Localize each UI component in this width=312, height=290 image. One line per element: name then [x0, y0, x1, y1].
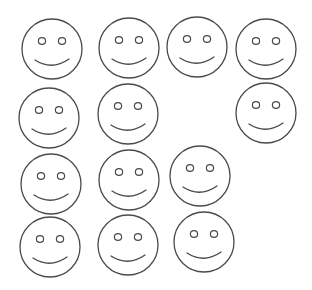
face-outline — [236, 83, 296, 143]
smiley-face-icon — [170, 146, 230, 206]
smile-mouth — [249, 123, 283, 129]
right-eye — [272, 38, 279, 45]
smiley-face-icon — [19, 88, 79, 148]
right-eye — [134, 234, 141, 241]
face-outline — [98, 215, 158, 275]
left-eye — [115, 37, 122, 44]
smile-mouth — [32, 128, 66, 134]
smiley-face-icon — [21, 154, 81, 214]
left-eye — [252, 38, 259, 45]
left-eye — [183, 36, 190, 43]
right-eye — [135, 37, 142, 44]
right-eye — [135, 169, 142, 176]
smile-mouth — [111, 124, 145, 130]
right-eye — [203, 36, 210, 43]
left-eye — [36, 236, 43, 243]
right-eye — [272, 102, 279, 109]
smiley-face-grid — [0, 0, 312, 290]
face-outline — [99, 18, 159, 78]
smiley-face-icon — [20, 217, 80, 277]
face-outline — [19, 88, 79, 148]
smile-mouth — [33, 257, 67, 263]
smiley-face-icon — [22, 19, 82, 79]
smiley-face-icon — [98, 84, 158, 144]
face-outline — [174, 212, 234, 272]
face-outline — [170, 146, 230, 206]
face-outline — [236, 19, 296, 79]
smiley-face-icon — [174, 212, 234, 272]
smile-mouth — [249, 59, 283, 65]
right-eye — [210, 231, 217, 238]
left-eye — [114, 103, 121, 110]
right-eye — [206, 165, 213, 172]
face-outline — [21, 154, 81, 214]
right-eye — [55, 107, 62, 114]
smile-mouth — [180, 57, 214, 63]
face-outline — [22, 19, 82, 79]
right-eye — [134, 103, 141, 110]
left-eye — [38, 38, 45, 45]
left-eye — [35, 107, 42, 114]
face-outline — [98, 84, 158, 144]
smiley-face-icon — [167, 17, 227, 77]
face-outline — [20, 217, 80, 277]
smiley-face-icon — [99, 150, 159, 210]
left-eye — [115, 169, 122, 176]
smile-mouth — [111, 255, 145, 261]
smile-mouth — [187, 252, 221, 258]
left-eye — [190, 231, 197, 238]
smile-mouth — [112, 58, 146, 64]
smile-mouth — [34, 194, 68, 200]
right-eye — [58, 38, 65, 45]
face-outline — [99, 150, 159, 210]
smile-mouth — [35, 59, 69, 65]
smiley-face-icon — [236, 83, 296, 143]
smiley-face-icon — [98, 215, 158, 275]
right-eye — [56, 236, 63, 243]
face-outline — [167, 17, 227, 77]
left-eye — [186, 165, 193, 172]
left-eye — [37, 173, 44, 180]
smile-mouth — [183, 186, 217, 192]
right-eye — [57, 173, 64, 180]
left-eye — [252, 102, 259, 109]
smiley-face-icon — [99, 18, 159, 78]
left-eye — [114, 234, 121, 241]
smile-mouth — [112, 190, 146, 196]
smiley-face-icon — [236, 19, 296, 79]
